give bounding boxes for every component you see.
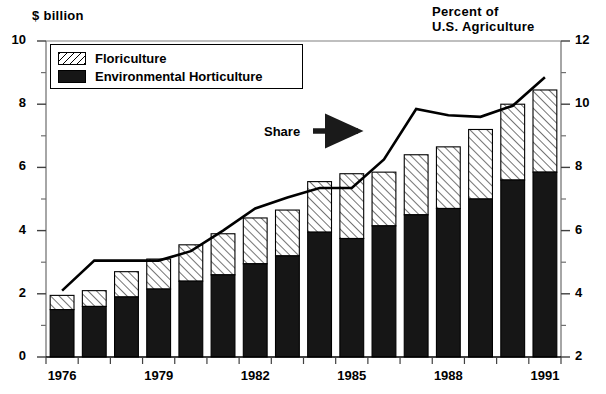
bar-segment-environmental-horticulture: [115, 297, 139, 357]
bar-group: [243, 218, 267, 357]
x-axis-tick-label: 1988: [423, 368, 473, 383]
bar-group: [211, 234, 235, 357]
legend-label-environmental-horticulture: Environmental Horticulture: [95, 69, 263, 84]
bar-segment-environmental-horticulture: [372, 226, 396, 357]
bar-group: [533, 90, 557, 357]
bar-segment-floriculture: [147, 259, 171, 289]
legend-swatch-floriculture: [58, 52, 86, 65]
bar-segment-floriculture: [82, 291, 106, 307]
bar-group: [50, 295, 74, 357]
bar-segment-environmental-horticulture: [50, 310, 74, 357]
bar-segment-environmental-horticulture: [404, 215, 428, 357]
bar-segment-floriculture: [340, 174, 364, 239]
x-axis-tick-label: 1982: [230, 368, 280, 383]
right-axis-tick-label: 6: [575, 222, 601, 237]
bar-group: [179, 245, 203, 357]
bar-segment-environmental-horticulture: [276, 256, 300, 357]
left-axis-tick-label: 0: [0, 348, 26, 363]
bar-group: [308, 182, 332, 357]
bar-segment-environmental-horticulture: [533, 172, 557, 357]
legend: Floriculture Environmental Horticulture: [50, 44, 303, 89]
bar-segment-floriculture: [276, 210, 300, 256]
left-axis-tick-label: 6: [0, 158, 26, 173]
bar-segment-floriculture: [469, 129, 493, 199]
left-axis-tick-label: 8: [0, 95, 26, 110]
x-axis-tick-label: 1976: [37, 368, 87, 383]
bar-segment-environmental-horticulture: [179, 281, 203, 357]
legend-item-environmental-horticulture: Environmental Horticulture: [58, 68, 263, 84]
bar-segment-floriculture: [50, 295, 74, 309]
right-axis-tick-label: 2: [575, 348, 601, 363]
bar-group: [469, 129, 493, 357]
bar-segment-environmental-horticulture: [501, 180, 525, 357]
bars-layer: [50, 90, 557, 357]
legend-item-floriculture: Floriculture: [58, 50, 167, 66]
bar-segment-environmental-horticulture: [243, 264, 267, 357]
left-axis-tick-label: 10: [0, 32, 26, 47]
bar-segment-floriculture: [372, 172, 396, 226]
bar-group: [147, 259, 171, 357]
bar-segment-floriculture: [404, 155, 428, 215]
bar-segment-environmental-horticulture: [211, 275, 235, 357]
right-axis-tick-label: 4: [575, 285, 601, 300]
chart-figure: $ billion Percent ofU.S. Agriculture Flo…: [0, 0, 606, 394]
bar-group: [115, 272, 139, 357]
x-axis-tick-label: 1985: [327, 368, 377, 383]
right-axis-tick-label: 8: [575, 158, 601, 173]
bar-group: [372, 172, 396, 357]
x-axis-tick-label: 1991: [520, 368, 570, 383]
bar-segment-floriculture: [243, 218, 267, 264]
bar-segment-floriculture: [115, 272, 139, 297]
bar-segment-floriculture: [436, 147, 460, 209]
left-axis-tick-label: 2: [0, 285, 26, 300]
bar-segment-environmental-horticulture: [308, 232, 332, 357]
bar-segment-environmental-horticulture: [82, 306, 106, 357]
legend-label-floriculture: Floriculture: [95, 51, 167, 66]
bar-group: [276, 210, 300, 357]
right-axis-tick-label: 10: [575, 95, 601, 110]
x-axis-tick-label: 1979: [134, 368, 184, 383]
bar-segment-environmental-horticulture: [469, 199, 493, 357]
bar-segment-floriculture: [533, 90, 557, 172]
bar-group: [436, 147, 460, 357]
legend-swatch-environmental-horticulture: [58, 70, 86, 83]
bar-segment-floriculture: [501, 104, 525, 180]
bar-segment-environmental-horticulture: [340, 239, 364, 358]
bar-group: [340, 174, 364, 357]
bar-group: [404, 155, 428, 357]
bar-segment-environmental-horticulture: [436, 208, 460, 357]
bar-group: [501, 104, 525, 357]
bar-segment-environmental-horticulture: [147, 289, 171, 357]
right-axis-tick-label: 12: [575, 32, 601, 47]
left-axis-tick-label: 4: [0, 222, 26, 237]
share-annotation-label: Share: [264, 124, 300, 139]
bar-group: [82, 291, 106, 357]
bar-segment-floriculture: [211, 234, 235, 275]
